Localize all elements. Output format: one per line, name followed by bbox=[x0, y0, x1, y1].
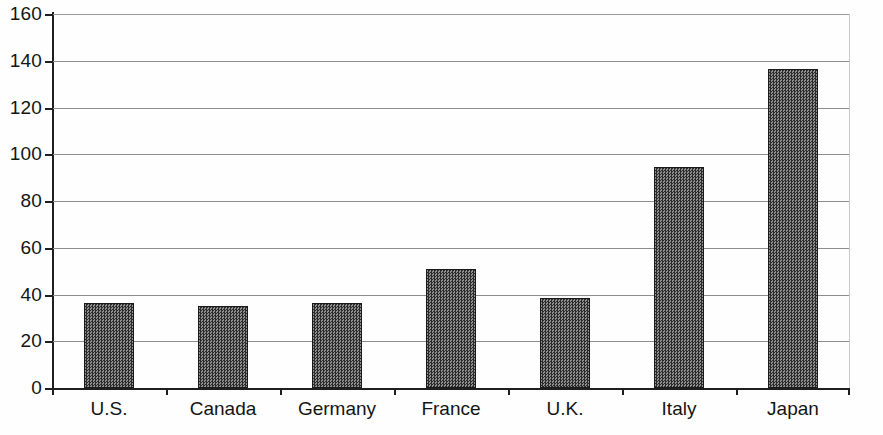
bar bbox=[312, 303, 362, 388]
y-axis-tick bbox=[45, 14, 53, 16]
bar bbox=[540, 298, 590, 388]
x-axis-tick bbox=[622, 388, 624, 395]
y-axis-tick bbox=[45, 61, 53, 63]
x-axis-tick bbox=[52, 388, 54, 395]
x-axis-category-label: Canada bbox=[190, 398, 257, 420]
y-axis-tick-label: 60 bbox=[0, 238, 42, 257]
gridline bbox=[52, 61, 850, 62]
x-axis-category-label: Germany bbox=[298, 398, 376, 420]
x-axis-tick bbox=[736, 388, 738, 395]
y-axis-labels: 020406080100120140160 bbox=[0, 0, 42, 435]
y-axis-tick-label: 40 bbox=[0, 285, 42, 304]
gridline bbox=[52, 201, 850, 202]
y-axis-tick-label: 100 bbox=[0, 144, 42, 163]
bar bbox=[198, 306, 248, 388]
plot-area bbox=[52, 14, 850, 388]
gridline bbox=[52, 14, 850, 15]
y-axis-tick bbox=[45, 295, 53, 297]
x-axis-ticks bbox=[52, 388, 850, 396]
bar bbox=[768, 69, 818, 388]
gridline bbox=[52, 108, 850, 109]
bar bbox=[84, 303, 134, 388]
bar-chart-figure: 020406080100120140160 U.S.CanadaGermanyF… bbox=[0, 0, 883, 435]
y-axis-tick-label: 0 bbox=[0, 378, 42, 397]
y-axis-tick-label: 120 bbox=[0, 98, 42, 117]
x-axis-category-label: Japan bbox=[767, 398, 819, 420]
x-axis-category-label: U.K. bbox=[547, 398, 584, 420]
x-axis-tick bbox=[508, 388, 510, 395]
y-axis-tick bbox=[45, 108, 53, 110]
y-axis-tick-label: 80 bbox=[0, 191, 42, 210]
x-axis-tick bbox=[394, 388, 396, 395]
gridline bbox=[52, 154, 850, 155]
y-axis-tick bbox=[45, 154, 53, 156]
y-axis-tick-label: 160 bbox=[0, 4, 42, 23]
x-axis-labels: U.S.CanadaGermanyFranceU.K.ItalyJapan bbox=[52, 398, 850, 426]
y-axis-tick-label: 140 bbox=[0, 51, 42, 70]
x-axis-category-label: France bbox=[421, 398, 480, 420]
y-axis-tick-label: 20 bbox=[0, 331, 42, 350]
x-axis-category-label: U.S. bbox=[91, 398, 128, 420]
gridline bbox=[52, 248, 850, 249]
y-axis-tick bbox=[45, 248, 53, 250]
x-axis-tick bbox=[848, 388, 850, 395]
y-axis-tick bbox=[45, 201, 53, 203]
bar bbox=[426, 269, 476, 388]
bar bbox=[654, 167, 704, 388]
y-axis-tick bbox=[45, 341, 53, 343]
x-axis-category-label: Italy bbox=[662, 398, 697, 420]
plot-right-edge bbox=[849, 14, 850, 388]
x-axis-tick bbox=[280, 388, 282, 395]
x-axis-tick bbox=[166, 388, 168, 395]
